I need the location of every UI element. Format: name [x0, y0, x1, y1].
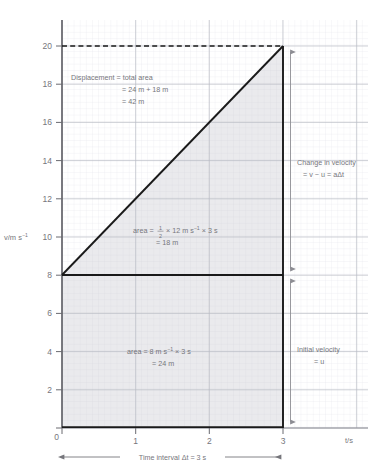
rectangle-area-line-1a: area = 8 m s [127, 347, 168, 356]
y-tick-label: 20 [43, 41, 53, 51]
velocity-time-chart: 20 18 16 14 12 10 8 6 4 2 0 v/m s−1 1 2 … [0, 0, 368, 473]
y-tick-labels: 20 18 16 14 12 10 8 6 4 2 0 [43, 41, 60, 442]
triangle-area-mid: × 12 m s [166, 226, 194, 235]
change-in-velocity-line-1: Change in velocity [297, 158, 356, 167]
displacement-line-1: Displacement = total area [71, 73, 153, 82]
y-tick-label: 8 [47, 270, 52, 280]
svg-text:v/m s−1: v/m s−1 [4, 232, 28, 242]
x-tick-label: 1 [133, 436, 138, 446]
x-tick-labels: 1 2 3 [133, 436, 285, 446]
y-tick-label: 18 [43, 79, 53, 89]
x-axis-title: t/s [345, 436, 353, 445]
y-tick-label: 14 [43, 156, 53, 166]
y-tick-label: 2 [47, 385, 52, 395]
y-tick-label: 10 [43, 232, 53, 242]
y-axis-title: v/m s−1 [4, 232, 28, 242]
figure-container: 20 18 16 14 12 10 8 6 4 2 0 v/m s−1 1 2 … [0, 0, 368, 473]
displacement-line-3: = 42 m [122, 97, 144, 106]
triangle-area-tail: × 3 s [202, 226, 218, 235]
y-tick-label: 16 [43, 117, 53, 127]
x-tick-label: 3 [281, 436, 286, 446]
y-axis-ticks [56, 46, 62, 428]
svg-text:area =: area = [133, 226, 154, 235]
triangle-area-prefix: area = [133, 226, 154, 235]
initial-velocity-line-2: = u [314, 357, 324, 366]
displacement-line-2: = 24 m + 18 m [122, 85, 168, 94]
y-tick-label: 12 [43, 194, 53, 204]
rectangle-area-line-2: = 24 m [152, 359, 174, 368]
x-axis-ticks [62, 428, 283, 434]
time-interval-measure: Time interval Δt = 3 s [64, 453, 281, 462]
rectangle-area-line-1b: × 3 s [175, 347, 191, 356]
svg-text:× 12 m s−1 × 3 s: × 12 m s−1 × 3 s [166, 225, 218, 235]
svg-text:area = 8 m s−1 × 3 s: area = 8 m s−1 × 3 s [127, 346, 191, 356]
triangle-area-line-2: = 18 m [156, 238, 178, 247]
y-tick-label: 4 [47, 347, 52, 357]
y-tick-label-zero: 0 [54, 432, 59, 442]
change-in-velocity-line-2: = v − u = aΔt [303, 170, 344, 179]
y-axis-title-text: v/m s [4, 233, 22, 242]
y-tick-label: 6 [47, 308, 52, 318]
time-interval-label: Time interval Δt = 3 s [139, 453, 207, 462]
x-tick-label: 2 [207, 436, 212, 446]
y-axis-title-sup: −1 [22, 232, 28, 238]
fraction-numerator: 1 [159, 225, 162, 231]
initial-velocity-line-1: Initial velocity [297, 345, 340, 354]
